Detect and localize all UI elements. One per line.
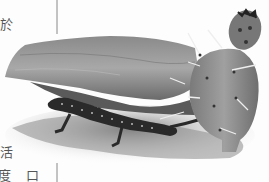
rock <box>5 36 200 115</box>
book-page-illustration: 於 活 度 口 <box>0 0 269 182</box>
cactus-fruit <box>224 7 265 54</box>
illustration <box>0 0 269 182</box>
